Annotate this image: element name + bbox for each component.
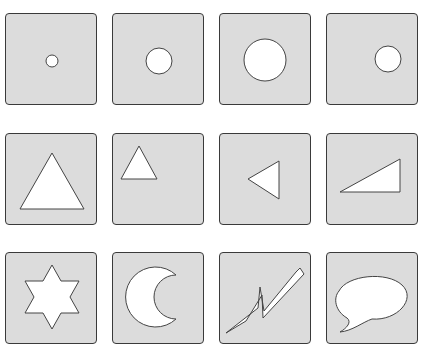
tile-offset-circle[interactable] [326, 13, 418, 105]
triangle-left-icon [220, 134, 309, 223]
triangle-icon [6, 134, 95, 223]
tile-small-triangle[interactable] [112, 133, 204, 225]
tile-speech-bubble[interactable] [326, 252, 418, 344]
crescent-moon-icon [113, 253, 202, 342]
tile-large-triangle[interactable] [5, 133, 97, 225]
tile-large-circle[interactable] [219, 13, 311, 105]
speech-bubble-icon [327, 253, 416, 342]
lightning-icon [220, 253, 309, 342]
circle-icon [6, 14, 95, 103]
circle-icon [220, 14, 309, 103]
right-triangle-icon [327, 134, 416, 223]
circle-icon [113, 14, 202, 103]
triangle-icon [113, 134, 202, 223]
tile-lightning[interactable] [219, 252, 311, 344]
tile-left-triangle[interactable] [219, 133, 311, 225]
tile-right-triangle[interactable] [326, 133, 418, 225]
tile-crescent[interactable] [112, 252, 204, 344]
tile-star[interactable] [5, 252, 97, 344]
star-icon [6, 253, 95, 342]
circle-icon [327, 14, 416, 103]
tile-medium-circle[interactable] [112, 13, 204, 105]
tile-small-circle[interactable] [5, 13, 97, 105]
